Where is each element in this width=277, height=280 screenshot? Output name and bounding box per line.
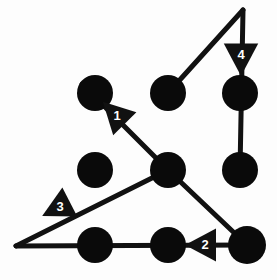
arrow-marker-4: 4	[224, 43, 258, 76]
arrow-order-label: 1	[113, 108, 120, 123]
arrow-order-label: 4	[237, 47, 245, 62]
node-bottom-right[interactable]	[228, 226, 266, 264]
node-top-center[interactable]	[150, 75, 186, 111]
arrow-marker-2: 2	[185, 229, 216, 262]
node-middle-right[interactable]	[222, 152, 258, 188]
direction-markers-group: 1234	[35, 43, 258, 261]
pattern-path-canvas: 1234	[0, 0, 277, 280]
arrow-order-label: 2	[201, 237, 208, 252]
arrow-order-label: 3	[56, 199, 63, 214]
node-middle-center[interactable]	[150, 152, 186, 188]
node-bottom-center[interactable]	[150, 227, 186, 263]
node-bottom-left[interactable]	[77, 227, 113, 263]
node-top-right[interactable]	[222, 75, 258, 111]
node-middle-left[interactable]	[77, 152, 113, 188]
pattern-path-figure: 1234	[0, 0, 277, 280]
